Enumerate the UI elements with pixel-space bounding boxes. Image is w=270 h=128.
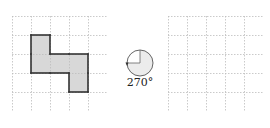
shaded-cell (69, 73, 88, 92)
source-grid-svg (12, 16, 107, 111)
rotation-angle-label: 270° (126, 76, 154, 89)
answer-grid-svg (168, 16, 263, 111)
shaded-cell (50, 54, 69, 73)
shaded-cell (31, 54, 50, 73)
source-grid (12, 16, 107, 111)
shaded-cell (31, 35, 50, 54)
rotation-270-icon (125, 48, 155, 78)
shaded-cell (69, 54, 88, 73)
answer-grid (168, 16, 263, 111)
